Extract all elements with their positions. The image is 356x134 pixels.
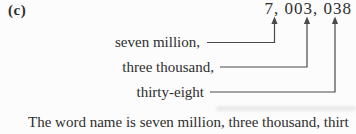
textbook-example-panel: (c) 7, 003, 038 seven million, three tho… <box>0 0 356 134</box>
part-label: (c) <box>8 2 26 19</box>
annotation-thirty-eight: thirty-eight <box>137 84 205 100</box>
word-name-caption: The word name is seven million, three th… <box>28 114 356 130</box>
annotation-seven-million: seven million, <box>115 34 200 50</box>
annotation-three-thousand: three thousand, <box>122 59 214 75</box>
scan-smudge-artifact <box>216 106 356 111</box>
arrow-to-millions-digit <box>207 17 278 43</box>
arrow-to-ones-digits <box>210 17 338 93</box>
arrow-to-thousands-digits <box>220 17 310 68</box>
place-value-numeral: 7, 003, 038 <box>265 0 353 17</box>
